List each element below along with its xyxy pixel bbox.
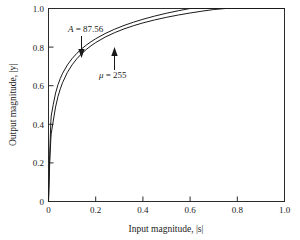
x-tick-label: 0.2 — [90, 205, 101, 215]
annotation-mu-law-label: μ = 255 — [98, 70, 127, 80]
companding-characteristic-figure: 0 0.2 0.4 0.6 0.8 1.0 0 0.2 0.4 0.6 0.8 … — [0, 0, 300, 240]
y-tick-label: 0.8 — [33, 43, 45, 53]
curve-a-law — [49, 9, 285, 202]
y-tick-label: 1.0 — [33, 4, 45, 14]
x-tick-label: 0.4 — [137, 205, 149, 215]
curve-mu-law — [49, 9, 285, 202]
x-tick-label: 0.8 — [232, 205, 244, 215]
chart-canvas: 0 0.2 0.4 0.6 0.8 1.0 0 0.2 0.4 0.6 0.8 … — [0, 0, 300, 240]
y-tick-label: 0.2 — [33, 158, 44, 168]
y-tick-label: 0.4 — [33, 120, 45, 130]
plot-frame — [49, 9, 285, 202]
y-tick-label: 0.6 — [33, 81, 45, 91]
annotation-a-law-label: A = 87.56 — [67, 24, 104, 34]
y-tick-label: 0 — [40, 197, 45, 207]
x-axis-ticks — [49, 197, 285, 202]
y-axis-title: Output magnitude, |y| — [8, 64, 18, 146]
annotation-mu-law-arrow-head — [111, 47, 117, 56]
x-tick-labels: 0 0.2 0.4 0.6 0.8 1.0 — [46, 205, 290, 215]
y-tick-labels: 0 0.2 0.4 0.6 0.8 1.0 — [33, 4, 45, 207]
x-tick-label: 1.0 — [279, 205, 291, 215]
x-axis-title: Input magnitude, |s| — [129, 224, 204, 234]
x-tick-label: 0 — [46, 205, 51, 215]
x-tick-label: 0.6 — [184, 205, 196, 215]
annotation-mu-law: μ = 255 — [98, 47, 127, 80]
